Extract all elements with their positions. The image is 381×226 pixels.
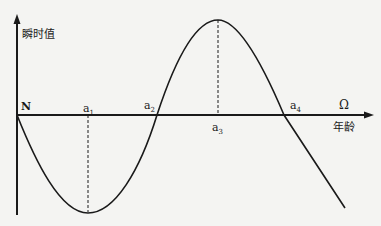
y-axis-arrow-icon — [14, 14, 21, 24]
x-axis-label: 年龄 — [333, 122, 355, 133]
curve — [17, 20, 345, 213]
point-label-a3: a3 — [212, 122, 223, 136]
omega-label: Ω — [339, 99, 349, 111]
point-label-a4: a4 — [290, 100, 301, 114]
x-axis-arrow-icon — [364, 112, 374, 119]
y-axis-label: 瞬时值 — [22, 29, 55, 40]
origin-label: N — [21, 101, 31, 112]
point-label-a1: a1 — [83, 103, 94, 117]
diagram-canvas — [0, 0, 381, 226]
point-label-a2: a2 — [144, 100, 155, 114]
